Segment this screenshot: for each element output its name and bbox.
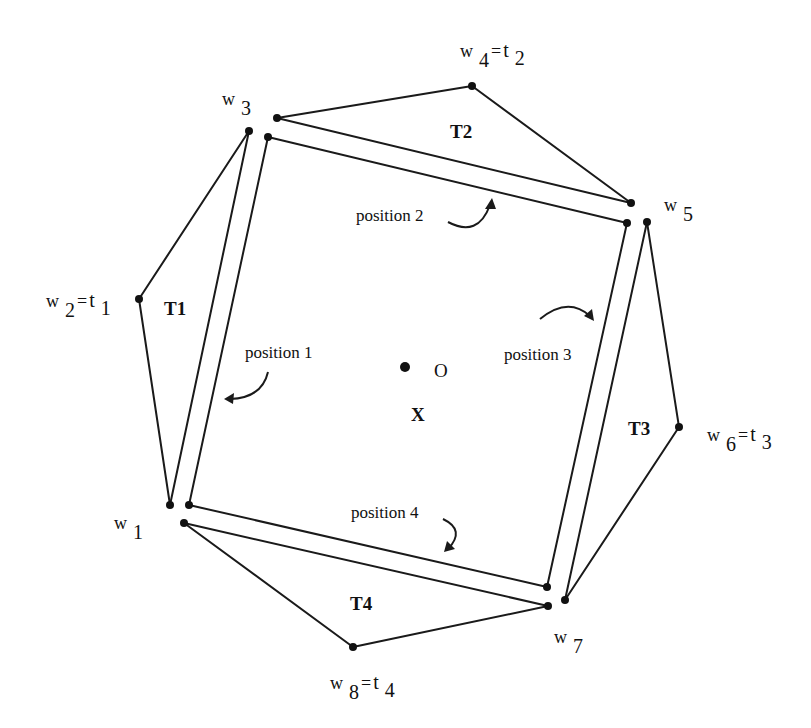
vertex-t2-left — [273, 114, 281, 122]
label-w6-t3: w6=t3 — [707, 424, 772, 444]
label-w3: w3 — [222, 88, 251, 108]
vertex-bar-top-right — [623, 219, 631, 227]
triangle-t1 — [139, 131, 249, 505]
triangle-t2 — [277, 86, 631, 203]
vertex-w1 — [166, 501, 174, 509]
bar-position-3 — [547, 223, 627, 587]
label-w7: w7 — [554, 626, 583, 646]
arrow-position-4-icon — [443, 519, 456, 552]
bar-position-2 — [268, 137, 627, 223]
label-center-o: O — [434, 361, 448, 380]
label-position-1: position 1 — [245, 344, 313, 361]
center-point-o — [400, 362, 410, 372]
vertex-t3-bottom — [561, 596, 569, 604]
vertex-w8 — [349, 643, 357, 651]
arrow-position-3-icon — [540, 307, 594, 321]
vertices — [135, 82, 683, 651]
label-region-x: X — [411, 405, 425, 424]
vertex-w7 — [544, 602, 552, 610]
vertex-w2 — [135, 295, 143, 303]
vertex-w3 — [245, 127, 253, 135]
vertex-bar-bottom-right — [543, 583, 551, 591]
label-t3: T3 — [628, 419, 650, 438]
vertex-t3-top — [643, 218, 651, 226]
triangle-t4 — [184, 523, 548, 647]
vertex-w4 — [468, 82, 476, 90]
bar-position-1 — [189, 137, 268, 505]
label-t2: T2 — [450, 122, 472, 141]
label-position-4: position 4 — [351, 504, 419, 521]
vertex-w6 — [675, 423, 683, 431]
vertex-bar-bottom-left — [185, 501, 193, 509]
label-w4-t2: w4=t2 — [460, 40, 525, 60]
label-t4: T4 — [350, 594, 372, 613]
vertex-bar-top-left — [264, 133, 272, 141]
label-position-2: position 2 — [356, 207, 424, 224]
vertex-w5 — [627, 199, 635, 207]
arrow-position-2-icon — [448, 198, 496, 227]
label-w1: w1 — [114, 512, 143, 532]
triangle-t3 — [565, 222, 679, 600]
label-w5: w5 — [664, 194, 693, 214]
label-w2-t1: w2=t1 — [46, 290, 111, 310]
arrow-position-1-icon — [224, 372, 268, 404]
label-position-3: position 3 — [504, 346, 572, 363]
polygon-diagram — [0, 0, 811, 728]
vertex-t4-left — [180, 519, 188, 527]
label-t1: T1 — [164, 299, 186, 318]
label-w8-t4: w8=t4 — [330, 672, 395, 692]
